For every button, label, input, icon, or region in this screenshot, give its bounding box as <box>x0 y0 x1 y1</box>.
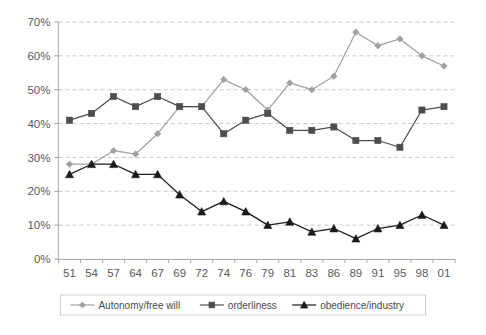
data-point-marker <box>177 104 183 110</box>
x-axis-tick-label: 67 <box>151 267 164 279</box>
x-axis-tick-label: 64 <box>129 267 142 279</box>
data-point-marker <box>287 127 293 133</box>
x-axis-tick-label: 81 <box>283 267 296 279</box>
data-point-marker <box>353 137 359 143</box>
y-axis-tick-label: 0% <box>34 253 51 265</box>
x-axis-tick-label: 69 <box>173 267 186 279</box>
data-point-marker <box>209 302 215 308</box>
legend-item-label: obedience/industry <box>320 300 404 311</box>
x-axis-tick-label: 89 <box>349 267 362 279</box>
data-point-marker <box>309 127 315 133</box>
data-point-marker <box>66 117 72 123</box>
y-axis-tick-label: 40% <box>27 118 50 130</box>
chart-canvas: 0%10%20%30%40%50%60%70% 5154576467697274… <box>0 0 486 335</box>
y-axis-tick-label: 10% <box>27 219 50 231</box>
data-point-marker <box>419 107 425 113</box>
data-point-marker <box>110 93 116 99</box>
data-point-marker <box>155 93 161 99</box>
data-point-marker <box>265 110 271 116</box>
line-chart: 0%10%20%30%40%50%60%70% 5154576467697274… <box>0 0 486 335</box>
data-point-marker <box>132 104 138 110</box>
x-axis-tick-label: 95 <box>394 267 407 279</box>
x-axis-tick-label: 83 <box>305 267 318 279</box>
legend-item-label: orderliness <box>228 300 277 311</box>
x-axis-tick-label: 51 <box>63 267 76 279</box>
x-axis-tick-label: 98 <box>416 267 429 279</box>
legend-item-label: Autonomy/free will <box>98 300 180 311</box>
x-axis-tick-label: 57 <box>107 267 120 279</box>
x-axis-tick-label: 74 <box>217 267 230 279</box>
data-point-marker <box>375 137 381 143</box>
data-point-marker <box>331 124 337 130</box>
data-point-marker <box>199 104 205 110</box>
data-point-marker <box>397 144 403 150</box>
y-axis-tick-label: 60% <box>27 50 50 62</box>
y-axis-tick-label: 30% <box>27 152 50 164</box>
x-axis-tick-label: 79 <box>261 267 274 279</box>
x-axis-tick-label: 91 <box>372 267 385 279</box>
x-axis-tick-label: 72 <box>195 267 208 279</box>
data-point-marker <box>88 110 94 116</box>
x-axis-tick-label: 54 <box>85 267 98 279</box>
x-axis-tick-label: 01 <box>438 267 451 279</box>
data-point-marker <box>221 131 227 137</box>
y-axis-tick-label: 50% <box>27 84 50 96</box>
x-axis-tick-label: 86 <box>327 267 340 279</box>
data-point-marker <box>243 117 249 123</box>
y-axis-tick-label: 20% <box>27 185 50 197</box>
chart-background <box>0 0 486 335</box>
y-axis-tick-label: 70% <box>27 16 50 28</box>
data-point-marker <box>441 104 447 110</box>
chart-legend: Autonomy/free willorderlinessobedience/i… <box>60 295 425 315</box>
x-axis-tick-label: 76 <box>239 267 252 279</box>
